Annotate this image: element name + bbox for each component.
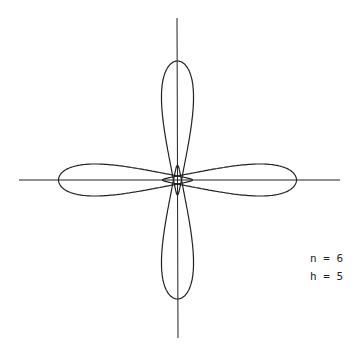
curve-plot — [0, 0, 357, 355]
parameter-n-label: n = 6 — [310, 252, 343, 265]
y-axis — [177, 18, 178, 338]
figure-canvas: n = 6 h = 5 — [0, 0, 357, 355]
parameter-h-label: h = 5 — [310, 270, 343, 283]
